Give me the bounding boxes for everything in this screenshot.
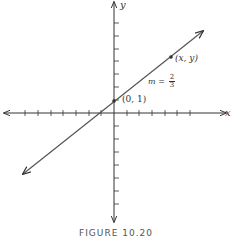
- slope-numerator: 2: [170, 74, 174, 81]
- slope-denominator: 3: [170, 82, 174, 89]
- slope-fraction: 2 3: [169, 74, 175, 89]
- slope-label: m =: [148, 78, 165, 86]
- y-axis-label: y: [120, 0, 126, 10]
- point-label-y-intercept: (0, 1): [122, 95, 146, 104]
- point-label-x-y: (x, y): [175, 54, 198, 63]
- figure-caption: FIGURE 10.20: [0, 228, 232, 236]
- point-y-intercept: [112, 99, 116, 103]
- coordinate-plane: [0, 0, 232, 236]
- x-axis-label: x: [225, 108, 231, 118]
- point-x-y: [169, 55, 173, 59]
